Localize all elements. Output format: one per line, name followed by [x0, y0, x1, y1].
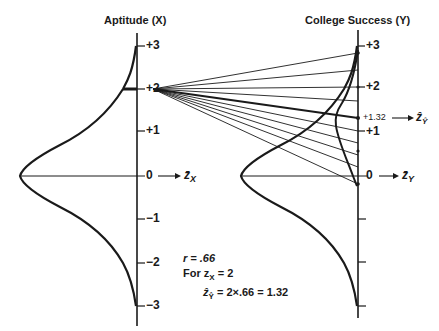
x-axis-title: Aptitude (X): [104, 14, 166, 26]
x-tick-label: 0: [146, 168, 153, 182]
y-predicted-tick-label: +1.32: [363, 112, 386, 122]
y-mean-symbol: z̄Y: [402, 168, 414, 184]
correlation-value: r = .66: [183, 251, 288, 266]
x-mean-arrow-icon: [175, 173, 181, 179]
x-mean-symbol: z̄X: [184, 168, 196, 184]
x-tick-label: +3: [146, 38, 160, 52]
x-tick-label: −2: [146, 255, 160, 269]
x-tick-label: −3: [146, 298, 160, 312]
y-tick-label: +1: [366, 124, 380, 138]
left-distribution-panel: [20, 33, 181, 326]
y-tick-label: +3: [366, 38, 380, 52]
predicted-arrow-icon: [408, 115, 414, 121]
given-zx: For zX = 2: [183, 266, 288, 285]
x-tick-label: +2: [146, 81, 160, 95]
x-tick-label: +1: [146, 123, 160, 137]
y-tick-label: 0: [366, 168, 373, 182]
correlation-annotation: r = .66 For zX = 2 ẑŶ = 2×.66 = 1.32: [183, 251, 288, 304]
x-tick-label: −1: [146, 211, 160, 225]
y-axis-title: College Success (Y): [305, 14, 410, 26]
predicted-computation: ẑŶ = 2×.66 = 1.32: [183, 285, 288, 304]
y-mean-arrow-icon: [393, 173, 399, 179]
predicted-z-symbol: ẑŶ: [416, 110, 427, 126]
prediction-fan-lines: [153, 53, 358, 184]
y-tick-label: +2: [366, 79, 380, 93]
